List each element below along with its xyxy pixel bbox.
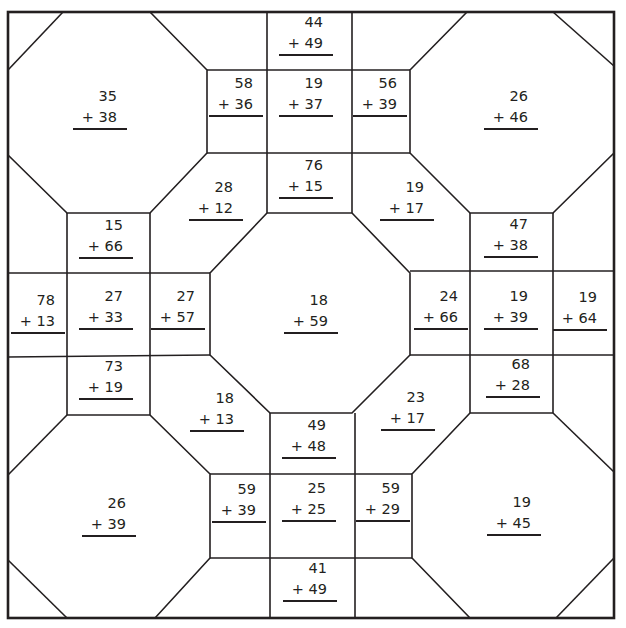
addend-bottom: + 28 — [486, 375, 540, 398]
addend-top: 58 — [209, 73, 263, 94]
addend-top: 28 — [189, 177, 243, 198]
addend-bottom: + 49 — [283, 579, 337, 602]
addend-bottom: + 66 — [414, 307, 468, 330]
addition-problem-23: 49+ 48 — [282, 415, 336, 459]
addend-top: 59 — [356, 478, 410, 499]
addition-problem-14: 27+ 57 — [151, 286, 205, 330]
addend-top: 19 — [487, 492, 541, 513]
addend-bottom: + 25 — [282, 499, 336, 522]
addition-problem-12: 78+ 13 — [11, 290, 65, 334]
addition-problem-24: 26+ 39 — [82, 493, 136, 537]
addend-top: 18 — [284, 290, 338, 311]
addition-problem-16: 24+ 66 — [414, 286, 468, 330]
addend-bottom: + 15 — [279, 176, 333, 199]
addition-problem-17: 19+ 39 — [484, 286, 538, 330]
addition-problem-11: 47+ 38 — [484, 214, 538, 258]
addend-bottom: + 13 — [11, 311, 65, 334]
addend-bottom: + 45 — [487, 513, 541, 536]
addition-problem-5: 44+ 49 — [279, 12, 333, 56]
addend-top: 49 — [282, 415, 336, 436]
addend-bottom: + 19 — [79, 377, 133, 400]
addend-bottom: + 36 — [209, 94, 263, 117]
addend-bottom: + 17 — [380, 198, 434, 221]
addition-problem-7: 28+ 12 — [189, 177, 243, 221]
addend-bottom: + 12 — [189, 198, 243, 221]
addend-top: 41 — [283, 558, 337, 579]
addend-bottom: + 37 — [279, 94, 333, 117]
addition-problem-9: 19+ 17 — [380, 177, 434, 221]
addend-top: 68 — [486, 354, 540, 375]
addend-bottom: + 46 — [484, 107, 538, 130]
addition-problem-18: 19+ 64 — [553, 287, 607, 331]
addition-problem-1: 35+ 38 — [73, 86, 127, 130]
addend-top: 73 — [79, 356, 133, 377]
addend-top: 44 — [279, 12, 333, 33]
addend-bottom: + 17 — [381, 408, 435, 431]
addend-bottom: + 66 — [79, 236, 133, 259]
addition-problem-13: 27+ 33 — [79, 286, 133, 330]
addend-bottom: + 64 — [553, 308, 607, 331]
addend-top: 47 — [484, 214, 538, 235]
addend-top: 19 — [380, 177, 434, 198]
addition-problem-26: 25+ 25 — [282, 478, 336, 522]
addend-bottom: + 33 — [79, 307, 133, 330]
addend-top: 25 — [282, 478, 336, 499]
addend-bottom: + 38 — [73, 107, 127, 130]
addend-top: 27 — [151, 286, 205, 307]
addend-top: 23 — [381, 387, 435, 408]
addition-problem-22: 23+ 17 — [381, 387, 435, 431]
addition-problem-2: 58+ 36 — [209, 73, 263, 117]
addition-problem-4: 56+ 39 — [353, 73, 407, 117]
addend-top: 78 — [11, 290, 65, 311]
addition-problem-29: 41+ 49 — [283, 558, 337, 602]
addition-problem-15: 18+ 59 — [284, 290, 338, 334]
addend-bottom: + 39 — [212, 500, 266, 523]
addend-top: 27 — [79, 286, 133, 307]
addition-problem-20: 68+ 28 — [486, 354, 540, 398]
addend-bottom: + 38 — [484, 235, 538, 258]
addend-top: 19 — [484, 286, 538, 307]
addition-problem-27: 59+ 29 — [356, 478, 410, 522]
addend-bottom: + 57 — [151, 307, 205, 330]
addition-problem-3: 19+ 37 — [279, 73, 333, 117]
addend-top: 24 — [414, 286, 468, 307]
addend-top: 35 — [73, 86, 127, 107]
addition-problem-8: 76+ 15 — [279, 155, 333, 199]
addend-top: 59 — [212, 479, 266, 500]
addend-top: 19 — [279, 73, 333, 94]
addend-top: 26 — [82, 493, 136, 514]
addend-top: 15 — [79, 215, 133, 236]
addend-bottom: + 49 — [279, 33, 333, 56]
addend-top: 76 — [279, 155, 333, 176]
addend-bottom: + 39 — [82, 514, 136, 537]
addend-top: 19 — [553, 287, 607, 308]
addend-top: 26 — [484, 86, 538, 107]
addition-problem-10: 15+ 66 — [79, 215, 133, 259]
addend-bottom: + 39 — [484, 307, 538, 330]
addend-bottom: + 13 — [190, 409, 244, 432]
addition-problem-21: 18+ 13 — [190, 388, 244, 432]
addend-bottom: + 59 — [284, 311, 338, 334]
addition-problem-25: 59+ 39 — [212, 479, 266, 523]
addition-problem-6: 26+ 46 — [484, 86, 538, 130]
addend-bottom: + 29 — [356, 499, 410, 522]
addition-problem-28: 19+ 45 — [487, 492, 541, 536]
addition-problem-19: 73+ 19 — [79, 356, 133, 400]
addend-top: 56 — [353, 73, 407, 94]
addend-bottom: + 39 — [353, 94, 407, 117]
addend-bottom: + 48 — [282, 436, 336, 459]
addend-top: 18 — [190, 388, 244, 409]
